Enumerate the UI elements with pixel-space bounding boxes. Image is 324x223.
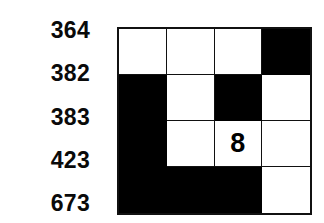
grid-cell-r2c3[interactable] xyxy=(215,75,263,121)
grid-cell-r4c2[interactable] xyxy=(167,167,215,213)
puzzle-grid: 8 xyxy=(117,27,312,215)
grid-cell-r3c4[interactable] xyxy=(262,121,310,167)
grid-cell-r2c1[interactable] xyxy=(119,75,167,121)
row-label-3: 383 xyxy=(51,106,90,129)
grid-cell-r1c3[interactable] xyxy=(215,29,263,75)
grid-cell-r2c2[interactable] xyxy=(167,75,215,121)
grid-cell-r1c1[interactable] xyxy=(119,29,167,75)
grid-cell-r4c3[interactable] xyxy=(215,167,263,213)
grid-cell-r4c1[interactable] xyxy=(119,167,167,213)
grid-cell-r3c2[interactable] xyxy=(167,121,215,167)
row-label-2: 382 xyxy=(51,62,90,85)
page-root: 364 382 383 423 673 8 xyxy=(0,0,324,223)
grid-cell-r2c4[interactable] xyxy=(262,75,310,121)
grid-cell-r3c1[interactable] xyxy=(119,121,167,167)
grid-cell-r3c3[interactable]: 8 xyxy=(215,121,263,167)
row-label-5: 673 xyxy=(51,192,90,215)
grid-cell-value: 8 xyxy=(230,130,245,157)
row-label-1: 364 xyxy=(51,19,90,42)
row-number-labels: 364 382 383 423 673 xyxy=(0,19,104,215)
row-label-4: 423 xyxy=(51,149,90,172)
grid-cell-r1c2[interactable] xyxy=(167,29,215,75)
grid-cell-r1c4[interactable] xyxy=(262,29,310,75)
grid-cell-r4c4[interactable] xyxy=(262,167,310,213)
puzzle-grid-cells: 8 xyxy=(119,29,310,213)
